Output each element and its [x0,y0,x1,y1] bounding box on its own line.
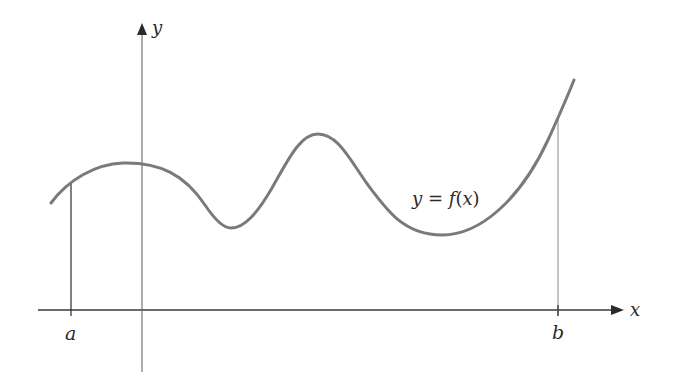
curve-label: y = f(x) [411,188,480,209]
x-axis-label: x [630,299,640,320]
x-axis: x [38,299,640,320]
x-axis-arrow-icon [611,305,624,315]
y-axis-arrow-icon [137,23,147,35]
right-bound-label: b [552,321,564,343]
function-graph: x y a b y = f(x) [0,0,678,392]
y-axis-label: y [151,17,163,38]
left-bound-a: a [65,183,76,344]
right-bound-b: b [552,117,564,343]
left-bound-label: a [65,322,76,344]
y-axis: y [137,17,163,372]
function-curve [51,80,574,235]
